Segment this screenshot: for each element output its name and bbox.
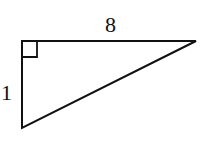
triangle-svg [0, 0, 200, 157]
right-angle-marker [22, 41, 37, 57]
top-side-length-label: 8 [105, 14, 116, 36]
right-triangle [22, 41, 196, 128]
left-side-length-label: 1 [1, 82, 12, 104]
triangle-figure: 8 1 [0, 0, 200, 157]
